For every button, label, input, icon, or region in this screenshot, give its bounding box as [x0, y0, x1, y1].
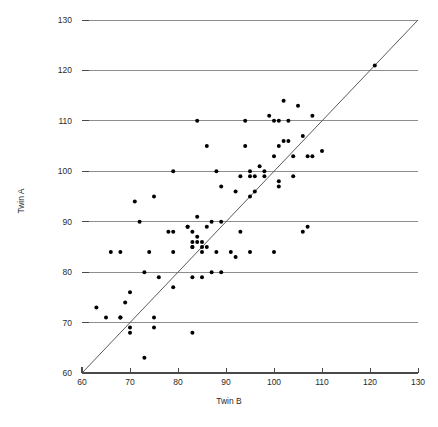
- data-point: [214, 169, 218, 173]
- x-tick-label-100: 100: [267, 377, 281, 387]
- y-tick-label-120: 120: [58, 65, 72, 75]
- data-point: [186, 225, 190, 229]
- data-point: [200, 250, 204, 254]
- data-point: [253, 189, 257, 193]
- data-point: [138, 220, 142, 224]
- data-point: [296, 104, 300, 108]
- data-point: [190, 230, 194, 234]
- data-point: [234, 255, 238, 259]
- data-point: [277, 179, 281, 183]
- data-point: [190, 331, 194, 335]
- data-point: [238, 174, 242, 178]
- data-point: [291, 174, 295, 178]
- y-tick-label-110: 110: [58, 116, 72, 126]
- data-point: [205, 144, 209, 148]
- data-point: [200, 240, 204, 244]
- data-point: [248, 174, 252, 178]
- data-point: [214, 250, 218, 254]
- data-point: [152, 195, 156, 199]
- data-point: [142, 356, 146, 360]
- data-point: [190, 240, 194, 244]
- data-point: [171, 250, 175, 254]
- data-point: [109, 250, 113, 254]
- data-point: [320, 149, 324, 153]
- data-point: [118, 250, 122, 254]
- data-point: [229, 250, 233, 254]
- data-point: [243, 144, 247, 148]
- data-point: [248, 195, 252, 199]
- data-point: [262, 174, 266, 178]
- data-point: [205, 225, 209, 229]
- x-tick-label-120: 120: [363, 377, 377, 387]
- plot-canvas: 60708090100110120130 6070809010011012013…: [0, 0, 438, 427]
- data-point: [272, 250, 276, 254]
- y-tick-label-60: 60: [63, 368, 73, 378]
- x-axis-title: Twin B: [216, 396, 242, 406]
- data-point: [210, 220, 214, 224]
- data-point: [262, 169, 266, 173]
- data-point: [291, 154, 295, 158]
- data-point: [152, 326, 156, 330]
- x-tick-label-90: 90: [221, 377, 231, 387]
- data-point: [200, 275, 204, 279]
- data-point: [248, 250, 252, 254]
- y-tick-labels: 60708090100110120130: [58, 15, 72, 378]
- data-point: [301, 134, 305, 138]
- data-point: [234, 189, 238, 193]
- data-point: [277, 119, 281, 123]
- data-point: [286, 119, 290, 123]
- data-point: [310, 154, 314, 158]
- data-point: [238, 230, 242, 234]
- data-point: [171, 230, 175, 234]
- data-point: [210, 270, 214, 274]
- data-point: [277, 144, 281, 148]
- axes: [82, 367, 418, 373]
- data-point: [123, 300, 127, 304]
- y-tick-label-70: 70: [63, 318, 73, 328]
- data-point: [128, 290, 132, 294]
- x-tick-labels: 60708090100110120130: [77, 377, 425, 387]
- data-point: [286, 139, 290, 143]
- data-point: [128, 326, 132, 330]
- x-tick-label-130: 130: [411, 377, 425, 387]
- data-point: [152, 316, 156, 320]
- data-point: [171, 285, 175, 289]
- data-point: [253, 174, 257, 178]
- data-point: [118, 316, 122, 320]
- data-point: [277, 184, 281, 188]
- data-point: [219, 220, 223, 224]
- data-point: [272, 119, 276, 123]
- data-point: [282, 139, 286, 143]
- data-point: [272, 154, 276, 158]
- data-point: [282, 99, 286, 103]
- x-tick-label-70: 70: [125, 377, 135, 387]
- data-point: [128, 331, 132, 335]
- data-point: [195, 240, 199, 244]
- data-point: [219, 270, 223, 274]
- data-point: [306, 154, 310, 158]
- data-point: [190, 275, 194, 279]
- data-point: [373, 63, 377, 67]
- data-point: [195, 235, 199, 239]
- data-point: [205, 245, 209, 249]
- data-point: [94, 305, 98, 309]
- y-tick-label-130: 130: [58, 15, 72, 25]
- data-point: [104, 316, 108, 320]
- x-tick-label-60: 60: [77, 377, 87, 387]
- data-point: [190, 245, 194, 249]
- data-point: [306, 225, 310, 229]
- data-point: [171, 169, 175, 173]
- data-point: [133, 200, 137, 204]
- data-point: [301, 230, 305, 234]
- x-tick-label-110: 110: [315, 377, 329, 387]
- data-point: [142, 270, 146, 274]
- data-point: [195, 215, 199, 219]
- y-axis-title: Twin A: [16, 188, 26, 213]
- data-point: [219, 184, 223, 188]
- data-point: [243, 119, 247, 123]
- data-point: [157, 275, 161, 279]
- data-point: [200, 245, 204, 249]
- y-tick-label-90: 90: [63, 217, 73, 227]
- y-tick-label-80: 80: [63, 267, 73, 277]
- data-point: [310, 114, 314, 118]
